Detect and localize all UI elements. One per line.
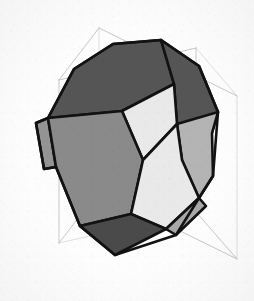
polyhedron-figure <box>0 0 254 301</box>
polyhedron-canvas <box>0 0 254 301</box>
